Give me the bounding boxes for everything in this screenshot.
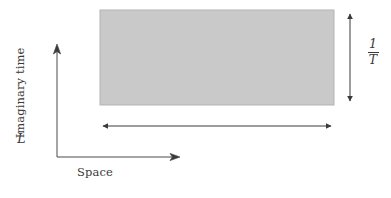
spacetime-diagram: Imaginary time Space L 1 T xyxy=(0,0,391,198)
inverse-temperature-dimension-label: 1 T xyxy=(360,38,386,66)
length-dimension-label: L xyxy=(0,131,391,146)
length-dimension-label-text: L xyxy=(17,131,25,146)
diagram-canvas xyxy=(0,0,391,198)
fraction-numerator: 1 xyxy=(360,38,386,52)
fraction-denominator: T xyxy=(360,53,386,67)
space-axis-label: Space xyxy=(77,165,113,179)
imaginary-time-axis-label-text: Imaginary time xyxy=(13,48,27,139)
spacetime-region-rect xyxy=(100,10,334,105)
